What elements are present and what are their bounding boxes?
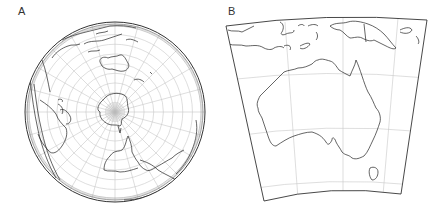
tasmania bbox=[369, 167, 378, 180]
panel-b-conic-map bbox=[0, 0, 441, 214]
conic-graticule bbox=[226, 17, 427, 199]
conic-coastlines bbox=[228, 21, 419, 180]
conic-frame bbox=[226, 17, 427, 201]
new-guinea bbox=[330, 21, 396, 49]
indonesia bbox=[228, 26, 274, 50]
